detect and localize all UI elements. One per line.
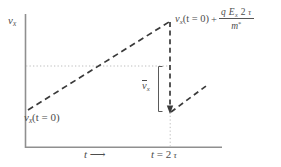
average-velocity-bracket <box>159 67 163 112</box>
field-subscript: x <box>235 11 238 18</box>
initial-velocity-argument: (t = 0) <box>32 111 60 123</box>
x-axis-label: t ⟶ <box>84 149 105 160</box>
gain-fraction-numerator: q Ex 2 τ <box>219 8 254 19</box>
acceleration-ramp-dashed <box>28 22 169 110</box>
x-axis-tick-label: t = 2 τ <box>151 149 177 160</box>
gain-fraction-denominator: m* <box>231 19 241 32</box>
tick-label-tau: τ <box>173 150 176 160</box>
average-velocity-subscript: x <box>147 85 150 92</box>
average-velocity-symbol: v <box>142 81 147 92</box>
effective-mass-star: * <box>238 20 241 27</box>
velocity-time-figure: vx vx(t = 0) vx(t = 0) + q Ex 2 τ m* vx … <box>0 0 281 167</box>
y-axis-label: vx <box>8 15 16 28</box>
right-arrow-icon: ⟶ <box>90 148 105 160</box>
plus-operator: + <box>211 15 217 26</box>
restart-ramp-dashed <box>171 86 206 112</box>
charge-symbol: q <box>221 7 226 17</box>
tick-label-value: 2 <box>166 148 172 160</box>
tick-label-equals: = <box>157 148 163 160</box>
factor-two: 2 <box>241 7 246 17</box>
final-velocity-base: vx(t = 0) <box>175 14 209 26</box>
tau-symbol: τ <box>248 8 251 17</box>
tick-label-time-symbol: t <box>151 148 154 160</box>
x-axis-label-symbol: t <box>84 148 87 160</box>
y-axis-label-subscript: x <box>13 20 16 28</box>
average-velocity-label: vx <box>142 81 150 93</box>
gain-fraction: q Ex 2 τ m* <box>219 8 254 32</box>
collision-drop-arrowhead <box>167 106 173 115</box>
final-velocity-argument: (t = 0) <box>183 13 209 24</box>
final-velocity-label: vx(t = 0) + q Ex 2 τ m* <box>175 8 254 32</box>
initial-velocity-label: vx(t = 0) <box>24 112 60 125</box>
